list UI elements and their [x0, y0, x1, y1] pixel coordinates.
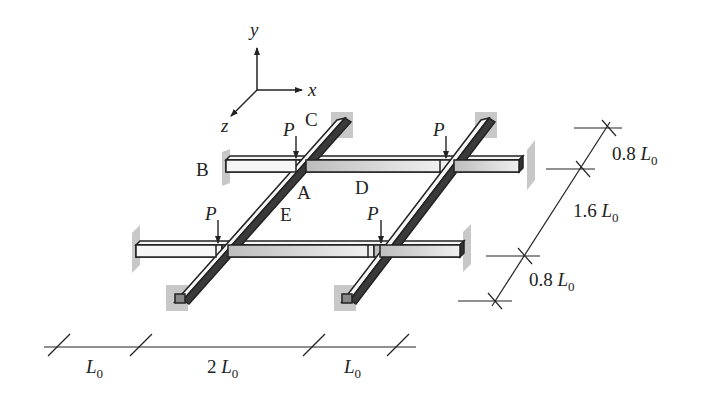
- axis-y-label: y: [248, 19, 259, 40]
- load-label-2: P: [432, 119, 445, 140]
- point-c-label: C: [305, 109, 318, 130]
- dim-right-1: 0.8 L0: [612, 143, 658, 168]
- load-label-3: P: [204, 203, 217, 224]
- load-label-1: P: [282, 119, 295, 140]
- beam-left-longitudinal: [175, 118, 351, 304]
- axis-z-label: z: [220, 115, 229, 136]
- coordinate-axes: [231, 48, 302, 116]
- bottom-dimension-line: [44, 334, 416, 356]
- beam-right-longitudinal: [342, 118, 495, 304]
- diagram-svg: y x z: [0, 0, 703, 400]
- point-d-label: D: [355, 177, 369, 198]
- axis-x-label: x: [307, 79, 317, 100]
- dim-bottom-3: L0: [343, 356, 361, 381]
- dim-right-2: 1.6 L0: [573, 200, 619, 225]
- load-label-4: P: [366, 203, 379, 224]
- dim-right-3: 0.8 L0: [529, 269, 575, 294]
- point-e-label: E: [280, 204, 292, 225]
- dim-bottom-1: L0: [85, 356, 103, 381]
- point-b-label: B: [196, 159, 209, 180]
- point-a-label: A: [297, 182, 311, 203]
- grillage-diagram: y x z: [0, 0, 703, 400]
- dim-bottom-2: 2 L0: [207, 356, 238, 381]
